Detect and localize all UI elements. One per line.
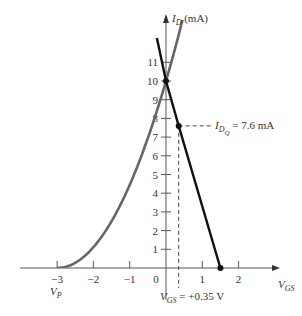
y-tick-label: 6 <box>153 150 159 162</box>
q-point-guides <box>179 126 212 288</box>
data-point <box>163 78 169 84</box>
x-axis-arrow-icon <box>272 265 280 271</box>
x-axis-ticks: −3−2−1012 <box>51 261 241 285</box>
y-tick-label: 2 <box>153 225 159 237</box>
y-axis-label: ID (mA) <box>171 12 208 27</box>
x-tick-label: 2 <box>236 273 242 285</box>
x-axis-label: VGS <box>278 278 295 293</box>
transfer-curve <box>57 0 208 268</box>
y-axis-arrow-icon <box>163 14 169 23</box>
y-tick-label: 11 <box>147 56 158 68</box>
chart: −3−2−1012 1234567891011 ID (mA) VGS VP V… <box>0 0 302 316</box>
y-tick-label: 4 <box>153 187 159 199</box>
y-tick-label: 3 <box>153 206 159 218</box>
y-tick-label: 5 <box>153 169 159 181</box>
x-tick-label: −3 <box>51 273 63 285</box>
y-axis <box>163 14 169 300</box>
y-tick-label: 9 <box>153 94 159 106</box>
x-tick-label: 1 <box>200 273 206 285</box>
data-point <box>176 123 182 129</box>
y-tick-label: 10 <box>147 75 159 87</box>
y-tick-label: 1 <box>153 243 159 255</box>
x-tick-label: 0 <box>153 273 159 285</box>
x-tick-label: −2 <box>88 273 100 285</box>
data-point <box>217 265 223 271</box>
pinch-off-label: VP <box>50 285 62 300</box>
y-tick-label: 7 <box>153 131 159 143</box>
q-current-label: IDQ = 7.6 mA <box>214 119 274 137</box>
x-tick-label: −1 <box>124 273 136 285</box>
q-voltage-label: VGS = +0.35 V <box>160 290 224 305</box>
